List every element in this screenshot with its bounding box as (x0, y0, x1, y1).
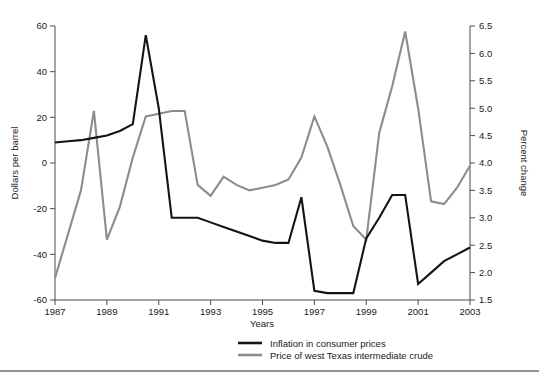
left-tick-label: 60 (36, 20, 47, 31)
axis-box (55, 26, 470, 300)
left-tick-label: -60 (33, 294, 47, 305)
bottom-axis-ticks: 198719891991199319951997199920012003 (44, 300, 480, 317)
axes-frame (55, 26, 470, 300)
right-tick-label: 6.0 (479, 48, 492, 59)
left-tick-label: 0 (42, 157, 47, 168)
chart-figure: 6040200-20-40-60 6.56.05.55.04.54.03.53.… (0, 0, 539, 382)
bottom-tick-label: 1993 (200, 306, 221, 317)
legend-label-inflation: Inflation in consumer prices (270, 338, 386, 349)
chart-legend: Inflation in consumer prices Price of we… (238, 338, 433, 361)
bottom-axis-title: Years (250, 318, 274, 329)
series-line-inflation (55, 35, 470, 293)
right-axis-title: Percent change (519, 130, 530, 197)
right-tick-label: 1.5 (479, 294, 492, 305)
right-tick-label: 4.0 (479, 157, 492, 168)
left-axis-ticks: 6040200-20-40-60 (33, 20, 55, 305)
left-tick-label: -40 (33, 249, 47, 260)
left-axis-title: Dollars per barrel (9, 127, 20, 200)
bottom-tick-label: 2003 (459, 306, 480, 317)
right-tick-label: 3.5 (479, 185, 492, 196)
left-tick-label: -20 (33, 203, 47, 214)
bottom-tick-label: 1999 (356, 306, 377, 317)
right-tick-label: 6.5 (479, 20, 492, 31)
bottom-tick-label: 1995 (252, 306, 273, 317)
bottom-tick-label: 1989 (96, 306, 117, 317)
right-tick-label: 5.5 (479, 75, 492, 86)
legend-label-crude: Price of west Texas intermediate crude (270, 350, 433, 361)
left-tick-label: 40 (36, 66, 47, 77)
bottom-tick-label: 1987 (44, 306, 65, 317)
left-tick-label: 20 (36, 112, 47, 123)
right-axis-ticks: 6.56.05.55.04.54.03.53.02.52.01.5 (470, 20, 492, 305)
bottom-tick-label: 1997 (304, 306, 325, 317)
right-tick-label: 3.0 (479, 212, 492, 223)
right-tick-label: 2.0 (479, 267, 492, 278)
bottom-tick-label: 1991 (148, 306, 169, 317)
bottom-tick-label: 2001 (408, 306, 429, 317)
right-tick-label: 4.5 (479, 130, 492, 141)
cut-off-header (0, 0, 539, 4)
right-tick-label: 2.5 (479, 240, 492, 251)
right-tick-label: 5.0 (479, 103, 492, 114)
dual-axis-line-chart: 6040200-20-40-60 6.56.05.55.04.54.03.53.… (0, 0, 539, 382)
